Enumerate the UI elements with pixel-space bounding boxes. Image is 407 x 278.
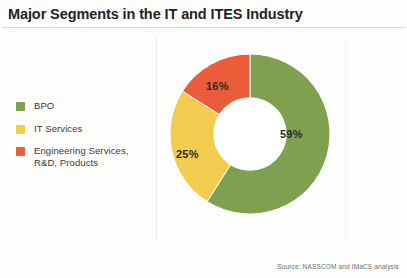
legend-swatch-icon-it-services — [16, 125, 25, 134]
slice-label-it-services: 25% — [176, 148, 199, 160]
legend-item-it-services[interactable]: IT Services — [16, 123, 151, 135]
legend-swatch-icon-bpo — [16, 102, 25, 111]
chart-figure: Major Segments in the IT and ITES Indust… — [0, 0, 407, 278]
legend-item-bpo[interactable]: BPO — [16, 100, 151, 112]
slice-label-bpo: 59% — [280, 128, 303, 140]
legend-swatch-icon-engineering — [16, 147, 25, 156]
source-note: Source: NASSCOM and IMaCS analysis — [277, 263, 399, 270]
page-title: Major Segments in the IT and ITES Indust… — [8, 4, 400, 24]
donut-center-hole — [213, 97, 287, 171]
plot-area-left-border — [156, 36, 157, 241]
donut-chart: 59% 25% 16% — [168, 52, 332, 216]
legend-label-bpo: BPO — [34, 100, 54, 112]
donut-chart-svg — [168, 52, 332, 216]
chart-legend: BPO IT Services Engineering Services, R&… — [16, 100, 151, 179]
plot-area-right-border — [345, 36, 346, 241]
slice-label-engineering: 16% — [206, 80, 229, 92]
legend-item-engineering[interactable]: Engineering Services, R&D, Products — [16, 145, 151, 168]
legend-label-it-services: IT Services — [34, 123, 82, 135]
legend-label-engineering: Engineering Services, R&D, Products — [34, 145, 151, 168]
title-divider — [2, 27, 406, 28]
